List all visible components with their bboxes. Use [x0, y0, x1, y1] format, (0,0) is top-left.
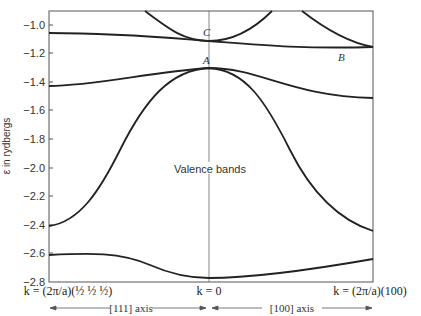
point-label-A: A	[202, 54, 210, 66]
svg-text:−1.6: −1.6	[23, 104, 45, 116]
axis-arrows	[50, 306, 372, 310]
band-structure-chart: −1.0 −1.2 −1.4 −1.6 −1.8 −2.0 −2.2 −2.4 …	[0, 0, 421, 316]
k-right-label: k = (2π/a)(100)	[333, 284, 406, 298]
y-ticks	[49, 25, 53, 253]
axis-100-label: [100] axis	[270, 302, 314, 314]
band-lowest	[49, 254, 373, 278]
svg-text:−1.8: −1.8	[23, 133, 45, 145]
svg-text:−2.2: −2.2	[23, 190, 45, 202]
svg-text:−1.0: −1.0	[23, 19, 45, 31]
svg-text:−2.6: −2.6	[23, 247, 45, 259]
svg-text:−1.4: −1.4	[23, 76, 45, 88]
k-center-label: k = 0	[197, 284, 222, 298]
svg-text:−2.0: −2.0	[23, 162, 45, 174]
k-left-label: k = (2π/a)(½ ½ ½)	[24, 284, 112, 298]
band-A-flat	[49, 68, 373, 98]
plot-frame	[49, 11, 373, 282]
svg-text:−1.2: −1.2	[23, 47, 45, 59]
y-axis-label: ε in rydbergs	[1, 118, 12, 175]
point-label-C: C	[203, 26, 211, 38]
svg-text:−2.4: −2.4	[23, 219, 45, 231]
band-B-descending	[302, 11, 373, 47]
point-label-B: B	[338, 51, 345, 63]
valence-bands-label: Valence bands	[174, 163, 246, 175]
y-tick-labels: −1.0 −1.2 −1.4 −1.6 −1.8 −2.0 −2.2 −2.4 …	[23, 19, 45, 288]
bands	[49, 11, 373, 278]
axis-111-label: [111] axis	[109, 302, 152, 314]
